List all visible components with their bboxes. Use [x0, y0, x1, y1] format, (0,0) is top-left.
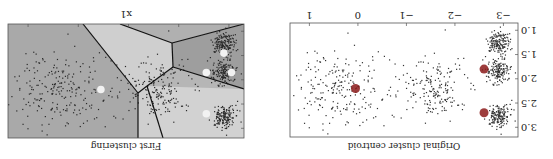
plot-frame [290, 23, 518, 137]
svg-text:2.5: 2.5 [521, 98, 537, 109]
first-clustering-panel: First clustering x1 [3, 9, 246, 151]
svg-text:−3: −3 [496, 10, 511, 21]
svg-text:0: 0 [355, 10, 361, 21]
figure-svg: −3−2−101 1.01.52.02.53.0 Original cluste… [0, 0, 553, 159]
svg-text:−2: −2 [448, 10, 463, 21]
panel-title: First clustering [90, 141, 161, 151]
voronoi-regions [8, 24, 244, 138]
figure: −3−2−101 1.01.52.02.53.0 Original cluste… [0, 0, 553, 159]
panel-title: Original cluster centroid [347, 141, 460, 151]
svg-text:1.5: 1.5 [521, 49, 537, 60]
x-axis-label: x1 [120, 9, 132, 20]
original-centroid-panel: −3−2−101 1.01.52.02.53.0 Original cluste… [290, 10, 537, 151]
svg-text:2.0: 2.0 [521, 73, 537, 84]
svg-text:1: 1 [306, 10, 312, 21]
svg-text:−1: −1 [399, 10, 414, 21]
svg-text:3.0: 3.0 [521, 122, 537, 133]
svg-text:1.0: 1.0 [521, 25, 537, 36]
